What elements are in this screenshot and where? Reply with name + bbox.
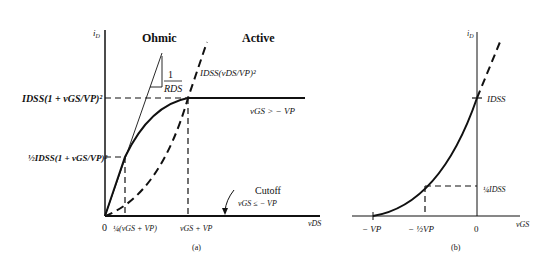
x-tick-zero: 0 [102,222,107,233]
cutoff-label: Cutoff [255,185,282,196]
x-tick-quarter: ¼(vGS + VP) [113,224,157,233]
x-tick-vgs-vp: vGS + VP [180,224,213,233]
boundary-label: IDSS(vDS/VP)² [199,68,256,78]
panel-b: iD IDSS ¼IDSS − VP − ½VP 0 vGS (b) [352,29,529,252]
quarter-idss-label: ¼IDSS [483,185,505,194]
x-tick-neg-vp: − VP [362,224,382,234]
y-axis-label: iD [93,28,101,39]
y-tick-idss: IDSS(1 + vGS/VP)² [21,93,103,105]
boundary-curve [105,42,207,216]
panel-a: iD Ohmic Active 1 RDS IDSS(vDS/VP)² vGS … [21,28,321,252]
tangent-line [105,53,162,216]
cutoff-condition: vGS ≤ − VP [238,199,277,208]
jfet-characteristics-figure: iD Ohmic Active 1 RDS IDSS(vDS/VP)² vGS … [0,0,560,271]
ohmic-label: Ohmic [142,31,177,45]
caption-a: (a) [192,243,201,252]
x-axis-label: vDS [308,219,321,228]
slope-denominator: RDS [163,83,182,94]
x-tick-neg-half-vp: − ½VP [408,224,435,234]
caption-b: (b) [451,243,461,252]
active-condition: vGS > − VP [250,106,295,116]
x-tick-zero-b: 0 [474,224,479,234]
x-axis-label-b: vGS [516,220,529,229]
idss-label: IDSS [486,94,506,104]
y-axis-label-b: iD [467,29,474,39]
slope-numerator: 1 [168,69,173,80]
y-tick-half-idss: ½IDSS(1 + vGS/VP)² [28,153,107,163]
active-label: Active [242,31,275,45]
